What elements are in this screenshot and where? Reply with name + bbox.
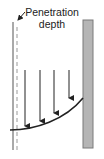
label-line-2: depth bbox=[25, 18, 79, 30]
label-line-1: Penetration bbox=[25, 6, 79, 18]
label-pointer-arrow bbox=[18, 12, 25, 20]
wall bbox=[83, 20, 93, 148]
penetration-depth-diagram: Penetration depth bbox=[0, 0, 104, 159]
decay-curve bbox=[10, 98, 83, 130]
penetration-depth-label: Penetration depth bbox=[25, 6, 79, 30]
